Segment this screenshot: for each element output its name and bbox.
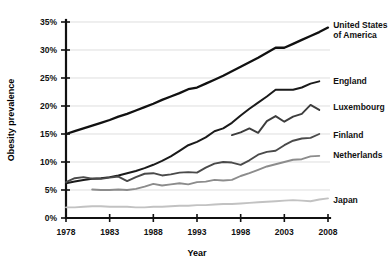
y-tick-label: 35% — [40, 17, 57, 27]
x-tick-label: 2003 — [275, 227, 294, 237]
x-axis-group: 1978198319881993199820032008 — [57, 214, 338, 237]
series-label-england: England — [333, 76, 367, 86]
series-label-japan: Japan — [333, 195, 358, 205]
series-label-united-states-of-america: United States — [333, 20, 388, 30]
series-line-finland — [66, 134, 319, 182]
x-tick-label: 1978 — [57, 227, 76, 237]
x-tick-label: 1988 — [144, 227, 163, 237]
series-line-japan — [66, 198, 328, 207]
gridlines-group — [66, 22, 330, 190]
y-tick-label: 30% — [40, 45, 57, 55]
series-label-luxembourg: Luxembourg — [333, 102, 384, 112]
series-labels-group: United Statesof AmericaEnglandLuxembourg… — [333, 20, 388, 205]
y-tick-label: 20% — [40, 101, 57, 111]
series-line-united-states-of-america — [66, 28, 328, 134]
x-tick-label: 1998 — [231, 227, 250, 237]
x-tick-label: 1983 — [100, 227, 119, 237]
chart-canvas: 0%5%10%15%20%25%30%35% 19781983198819931… — [0, 0, 391, 267]
y-tick-label: 15% — [40, 129, 57, 139]
y-tick-label: 0% — [45, 213, 58, 223]
x-tick-label: 1993 — [188, 227, 207, 237]
y-axis-group: 0%5%10%15%20%25%30%35% — [40, 17, 70, 223]
x-axis-title: Year — [187, 248, 207, 258]
series-line-luxembourg — [232, 105, 319, 135]
x-tick-label: 2008 — [319, 227, 338, 237]
y-tick-label: 10% — [40, 157, 57, 167]
obesity-prevalence-line-chart: 0%5%10%15%20%25%30%35% 19781983198819931… — [0, 0, 391, 267]
y-axis-title: Obesity prevalence — [6, 79, 16, 162]
series-label-united-states-of-america: of America — [333, 30, 377, 40]
series-line-england — [66, 81, 319, 183]
y-tick-label: 25% — [40, 73, 57, 83]
series-label-finland: Finland — [333, 130, 363, 140]
y-tick-label: 5% — [45, 185, 58, 195]
data-series-group — [66, 28, 328, 208]
series-label-netherlands: Netherlands — [333, 150, 382, 160]
